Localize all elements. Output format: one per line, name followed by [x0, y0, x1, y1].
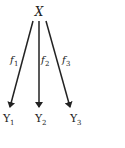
target-node-y3: Y 3: [69, 112, 81, 127]
root-node-x: X: [34, 5, 44, 19]
target-node-y2: Y 2: [34, 112, 46, 127]
svg-text:3: 3: [77, 119, 81, 127]
svg-text:2: 2: [45, 60, 49, 68]
svg-text:3: 3: [66, 60, 70, 68]
edge-label-f3: f 3: [61, 54, 70, 68]
mapping-diagram: X f 1 f 2 f 3 Y 1 Y 2 Y 3: [0, 0, 125, 148]
svg-text:1: 1: [14, 60, 18, 68]
edge-label-f1: f 1: [9, 54, 18, 68]
target-node-y1: Y 1: [2, 112, 14, 127]
edge-label-f2: f 2: [40, 54, 49, 68]
svg-text:2: 2: [42, 119, 46, 127]
svg-text:1: 1: [10, 119, 14, 127]
